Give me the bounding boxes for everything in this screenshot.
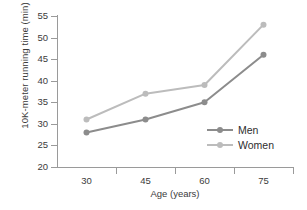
data-point: [84, 129, 90, 135]
legend-label: Men: [238, 124, 258, 136]
legend-swatch-icon: [207, 140, 233, 150]
legend-marker-icon: [217, 142, 223, 148]
data-point: [261, 22, 267, 28]
data-point: [202, 99, 208, 105]
data-point: [261, 52, 267, 58]
plot-data-layer: [0, 0, 307, 210]
data-point: [84, 117, 90, 123]
legend-label: Women: [238, 139, 274, 151]
legend-item-men[interactable]: Men: [207, 122, 274, 137]
line-chart: 10K-meter running time (min) Age (years)…: [0, 0, 307, 210]
legend-swatch-icon: [207, 125, 233, 135]
data-point: [202, 82, 208, 88]
data-point: [143, 117, 149, 123]
series-line-women: [87, 25, 264, 120]
legend: MenWomen: [207, 122, 274, 152]
series-line-men: [87, 55, 264, 133]
legend-item-women[interactable]: Women: [207, 137, 274, 152]
data-point: [143, 91, 149, 97]
legend-marker-icon: [217, 127, 223, 133]
